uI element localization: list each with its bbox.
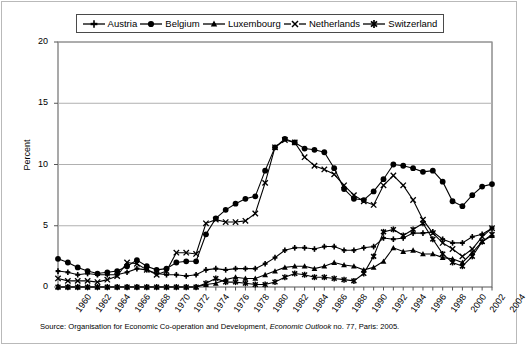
- y-tick-5: 5: [22, 220, 48, 230]
- y-tick-20: 20: [22, 36, 48, 46]
- y-tick-10: 10: [22, 159, 48, 169]
- source-caption: Source: Organisation for Economic Co-ope…: [40, 322, 399, 331]
- source-prefix: Source: Organisation for Economic Co-ope…: [40, 322, 270, 331]
- y-tick-15: 15: [22, 97, 48, 107]
- source-suffix: no. 77, Paris: 2005.: [331, 322, 399, 331]
- source-italic: Economic Outlook: [270, 322, 332, 331]
- y-tick-0: 0: [22, 281, 48, 291]
